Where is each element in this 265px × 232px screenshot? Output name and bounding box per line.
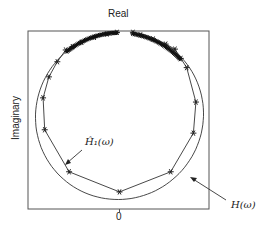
h1-annotation-label: Ĥ₁(ω) xyxy=(85,136,114,147)
real-axis-label: Real xyxy=(108,8,129,19)
h1-estimate-polyline xyxy=(43,32,196,192)
zero-tick-label: 0 xyxy=(116,211,122,222)
dense-marker-cluster xyxy=(65,31,183,62)
nyquist-plot xyxy=(0,0,265,232)
imaginary-axis-label: Imaginary xyxy=(10,96,21,140)
h-annotation-label: H(ω) xyxy=(231,199,256,210)
